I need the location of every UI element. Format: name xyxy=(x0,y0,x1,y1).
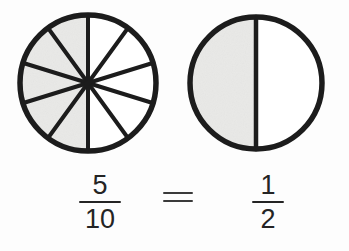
fraction-one-half: 1 2 xyxy=(230,172,306,233)
right-pie-halves xyxy=(190,17,322,149)
right-pie-shaded-half xyxy=(190,17,256,149)
right-pie-unshaded-half xyxy=(256,17,322,149)
fraction-figure: 5 10 1 2 xyxy=(0,0,349,251)
equals-bar-bottom xyxy=(163,200,193,202)
fraction-right-denominator: 2 xyxy=(260,203,275,233)
fraction-five-tenths: 5 10 xyxy=(62,172,138,233)
fraction-right-numerator: 1 xyxy=(260,172,275,201)
equals-bar-top xyxy=(163,192,193,194)
fraction-left-denominator: 10 xyxy=(85,203,115,233)
fraction-left-numerator: 5 xyxy=(92,172,107,201)
equals-sign xyxy=(160,190,196,208)
left-pie-tenths xyxy=(20,15,156,151)
